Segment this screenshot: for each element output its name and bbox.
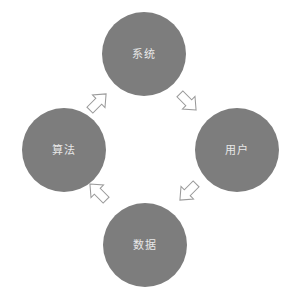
node-data-label: 数据	[133, 240, 157, 251]
arrow-system-to-user-icon	[175, 89, 201, 115]
node-system[interactable]: 系统	[102, 12, 186, 96]
node-user-label: 用户	[225, 145, 249, 156]
arrow-user-to-data-icon	[175, 179, 201, 205]
node-user[interactable]: 用户	[195, 108, 279, 192]
arrow-data-to-algorithm-icon	[85, 179, 111, 205]
cycle-diagram: 系统 用户 数据 算法	[0, 0, 292, 293]
node-data[interactable]: 数据	[103, 203, 187, 287]
arrow-algorithm-to-system-icon	[85, 89, 111, 115]
node-system-label: 系统	[132, 49, 156, 60]
node-algorithm-label: 算法	[52, 145, 76, 156]
